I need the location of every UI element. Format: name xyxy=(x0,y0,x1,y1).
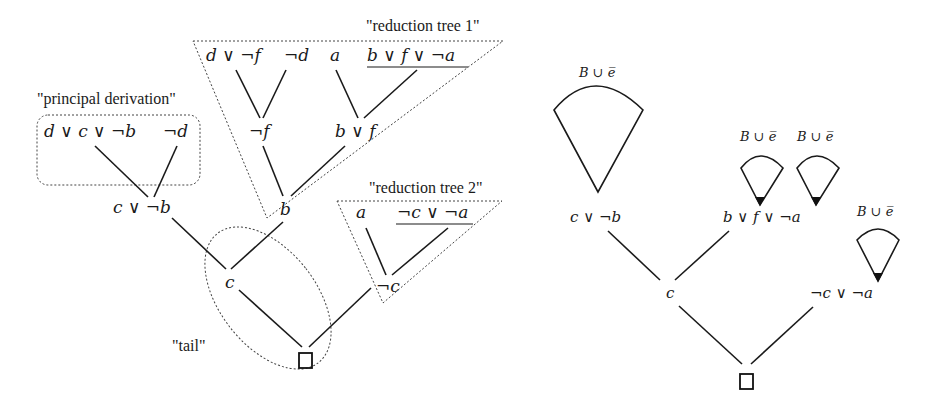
edge xyxy=(236,70,260,118)
cone-label: B ∪ e̅ xyxy=(578,65,616,80)
edge xyxy=(239,290,302,347)
cone-label: B ∪ e̅ xyxy=(796,129,834,144)
cone-label: B ∪ e̅ xyxy=(856,204,894,219)
reduction1-leaf-3: a xyxy=(330,45,340,65)
edge xyxy=(263,146,283,196)
edge xyxy=(95,146,148,197)
tail-caption: "tail" xyxy=(172,337,206,354)
reduction-tree-1-caption: "reduction tree 1" xyxy=(366,17,479,34)
edge xyxy=(364,70,417,118)
edge xyxy=(154,146,177,197)
reduction1-leaf-2: ¬d xyxy=(284,45,309,65)
reduction1-result: b xyxy=(280,199,291,219)
principal-derivation-caption: "principal derivation" xyxy=(37,90,176,108)
principal-leaf-2: ¬d xyxy=(163,121,188,141)
principal-result: c ∨ ¬b xyxy=(113,197,171,217)
cone-tip xyxy=(811,197,821,206)
edge xyxy=(679,306,742,364)
edge xyxy=(231,222,283,269)
edge xyxy=(263,70,286,118)
edge xyxy=(309,288,371,347)
reduction1-leaf-1: d ∨ ¬f xyxy=(206,45,263,65)
edge xyxy=(172,218,226,269)
principal-leaf-1: d ∨ c ∨ ¬b xyxy=(44,121,136,141)
empty-clause-box xyxy=(299,353,312,368)
cone-tip xyxy=(873,273,883,282)
derivation-figure: "principal derivation" d ∨ c ∨ ¬b ¬d c ∨… xyxy=(0,0,929,413)
edge xyxy=(751,307,813,364)
right-node-c-or-not-b: c ∨ ¬b xyxy=(570,208,621,226)
edge xyxy=(392,228,448,275)
right-node-b-or-f-or-not-a: b ∨ f ∨ ¬a xyxy=(723,208,801,226)
reduction1-leaf-4: b ∨ f ∨ ¬a xyxy=(367,45,455,65)
edge xyxy=(675,231,729,280)
left-diagram: "principal derivation" d ∨ c ∨ ¬b ¬d c ∨… xyxy=(37,17,503,392)
reduction2-result: ¬c xyxy=(376,276,400,296)
derivation-cone-large xyxy=(554,86,643,192)
edge xyxy=(366,228,386,275)
edge xyxy=(608,231,660,280)
right-node-c: c xyxy=(666,284,675,302)
edge xyxy=(291,146,345,196)
reduction2-leaf-2: ¬c ∨ ¬a xyxy=(397,202,468,222)
reduction1-mid-2: b ∨ f xyxy=(335,121,378,141)
tail-ellipse xyxy=(180,204,357,392)
right-diagram: B ∪ e̅ c ∨ ¬b B ∪ e̅ B ∪ e̅ b ∨ f ∨ ¬a B… xyxy=(554,65,899,389)
tail-node: c xyxy=(225,272,235,292)
reduction2-leaf-1: a xyxy=(356,202,366,222)
edge xyxy=(336,70,358,118)
right-node-not-c-or-not-a: ¬c ∨ ¬a xyxy=(810,284,873,302)
cone-tip xyxy=(755,197,765,206)
empty-clause-box xyxy=(740,374,753,389)
reduction1-mid-1: ¬f xyxy=(249,121,272,141)
reduction-tree-2-caption: "reduction tree 2" xyxy=(369,179,482,196)
cone-label: B ∪ e̅ xyxy=(739,129,777,144)
